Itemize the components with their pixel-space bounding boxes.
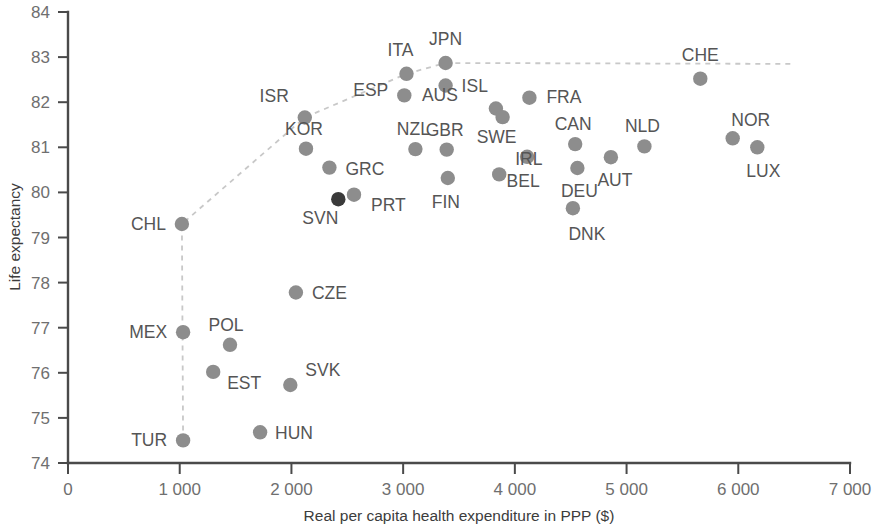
data-point-label-pol: POL: [208, 315, 243, 335]
data-point-label-irl: IRL: [515, 149, 543, 169]
data-point-label-chl: CHL: [131, 214, 166, 234]
y-tick-label: 84: [31, 3, 50, 22]
data-point-label-lux: LUX: [746, 161, 780, 181]
data-point-tur: [176, 433, 190, 447]
data-point-grc: [322, 160, 336, 174]
data-labels-layer: TURMEXCHLESTPOLHUNSVKCZEKORISRGRCSVNPRTE…: [129, 29, 780, 450]
data-point-lux: [750, 140, 764, 154]
data-point-swe: [495, 110, 509, 124]
y-tick-label: 83: [31, 48, 50, 67]
data-point-che: [693, 72, 707, 86]
data-point-label-gbr: GBR: [426, 120, 464, 140]
data-point-label-est: EST: [227, 373, 261, 393]
data-point-label-prt: PRT: [371, 195, 406, 215]
plot-canvas: 7475767778798081828384 Life expectancy 0…: [0, 0, 880, 532]
data-point-hun: [253, 425, 267, 439]
data-point-jpn: [438, 56, 452, 70]
x-tick-label: 2 000: [270, 480, 313, 499]
data-point-label-svk: SVK: [305, 360, 340, 380]
data-point-ita: [399, 67, 413, 81]
data-point-label-bel: BEL: [507, 171, 540, 191]
y-tick-label: 80: [31, 183, 50, 202]
x-tick-label: 1 000: [158, 480, 201, 499]
y-axis-group: 7475767778798081828384 Life expectancy: [6, 3, 68, 473]
data-point-fin: [441, 171, 455, 185]
data-point-label-nor: NOR: [731, 110, 770, 130]
data-point-pol: [223, 338, 237, 352]
data-point-est: [206, 365, 220, 379]
y-tick-label: 81: [31, 138, 50, 157]
data-point-irl: [492, 167, 506, 181]
efficiency-frontier-line: [182, 63, 794, 440]
data-points-layer: [175, 56, 765, 448]
data-point-label-dnk: DNK: [568, 224, 605, 244]
x-tick-label: 7 000: [829, 480, 872, 499]
y-axis-title: Life expectancy: [6, 183, 23, 291]
data-point-label-aut: AUT: [597, 170, 632, 190]
data-point-label-kor: KOR: [285, 119, 323, 139]
data-point-label-esp: ESP: [353, 80, 388, 100]
data-point-label-deu: DEU: [561, 181, 598, 201]
data-point-esp: [397, 88, 411, 102]
y-tick-label: 82: [31, 93, 50, 112]
data-point-fra: [522, 91, 536, 105]
x-tick-label: 4 000: [494, 480, 537, 499]
data-point-label-grc: GRC: [345, 159, 384, 179]
scatter-chart-figure: 7475767778798081828384 Life expectancy 0…: [0, 0, 880, 532]
data-point-gbr: [440, 142, 454, 156]
data-point-label-swe: SWE: [477, 127, 517, 147]
data-point-svn: [331, 192, 345, 206]
y-tick-label: 76: [31, 364, 50, 383]
data-point-label-isr: ISR: [260, 86, 289, 106]
data-point-label-fin: FIN: [432, 192, 460, 212]
x-axis-group: 01 0002 0003 0004 0005 0006 0007 000 Rea…: [63, 463, 871, 524]
y-tick-collection: 7475767778798081828384: [31, 3, 68, 473]
data-point-nor: [726, 131, 740, 145]
data-point-label-nld: NLD: [625, 116, 660, 136]
data-point-deu: [570, 161, 584, 175]
data-point-label-isl: ISL: [462, 76, 489, 96]
data-point-label-aus: AUS: [422, 85, 458, 105]
data-point-label-mex: MEX: [129, 322, 167, 342]
data-point-kor: [299, 142, 313, 156]
data-point-mex: [176, 325, 190, 339]
data-point-aut: [604, 150, 618, 164]
data-point-label-svn: SVN: [302, 208, 338, 228]
x-axis-title: Real per capita health expenditure in PP…: [304, 507, 615, 524]
data-point-label-tur: TUR: [131, 430, 167, 450]
y-tick-label: 74: [31, 454, 50, 473]
data-point-dnk: [566, 201, 580, 215]
x-tick-label: 6 000: [717, 480, 760, 499]
data-point-svk: [283, 378, 297, 392]
data-point-nld: [637, 139, 651, 153]
data-point-nzl: [408, 142, 422, 156]
x-tick-collection: 01 0002 0003 0004 0005 0006 0007 000: [63, 463, 871, 499]
data-point-label-fra: FRA: [546, 87, 581, 107]
data-point-label-cze: CZE: [312, 283, 347, 303]
data-point-label-can: CAN: [555, 114, 592, 134]
y-tick-label: 79: [31, 229, 50, 248]
data-point-can: [568, 137, 582, 151]
x-tick-label: 3 000: [382, 480, 425, 499]
y-tick-label: 77: [31, 319, 50, 338]
data-point-cze: [289, 285, 303, 299]
data-point-chl: [175, 217, 189, 231]
data-point-label-hun: HUN: [275, 423, 313, 443]
data-point-prt: [347, 188, 361, 202]
y-tick-label: 78: [31, 274, 50, 293]
data-point-label-che: CHE: [682, 45, 719, 65]
data-point-label-ita: ITA: [388, 40, 414, 60]
x-tick-label: 5 000: [605, 480, 648, 499]
y-tick-label: 75: [31, 409, 50, 428]
data-point-label-jpn: JPN: [429, 29, 462, 49]
x-tick-label: 0: [63, 480, 72, 499]
